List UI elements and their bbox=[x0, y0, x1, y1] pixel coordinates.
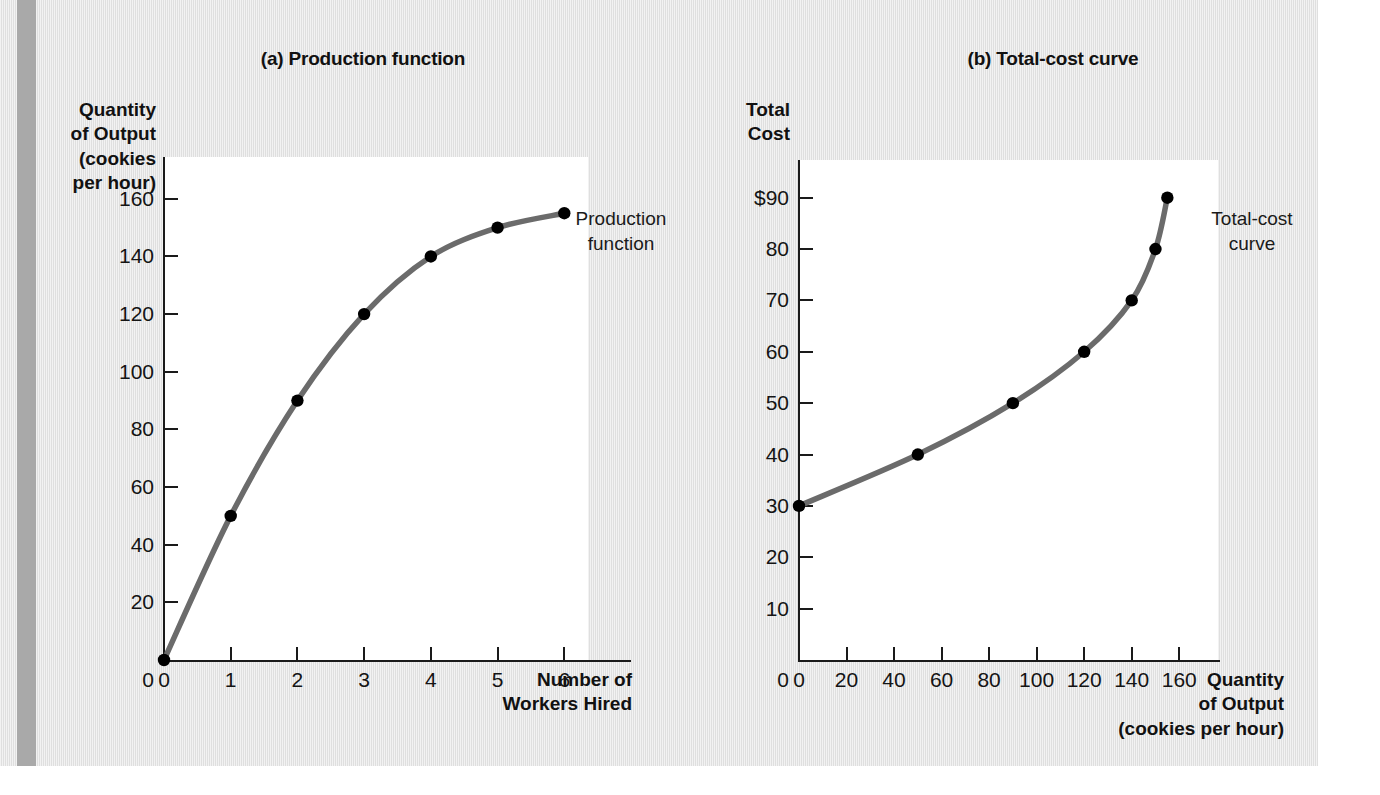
x-tick-label: 5 bbox=[468, 668, 528, 692]
y-tick-mark bbox=[800, 505, 813, 507]
plot-area-a bbox=[163, 157, 588, 660]
y-tick-label: 140 bbox=[74, 244, 154, 268]
y-tick-label: 10 bbox=[709, 597, 789, 621]
x-tick-mark bbox=[497, 647, 499, 660]
y-tick-label: 20 bbox=[709, 545, 789, 569]
y-tick-mark bbox=[165, 544, 178, 546]
x-tick-label: 0 bbox=[134, 668, 194, 692]
x-tick-label: 4 bbox=[401, 668, 461, 692]
y-tick-label: 40 bbox=[74, 533, 154, 557]
x-tick-mark bbox=[1083, 647, 1085, 660]
y-tick-label: 120 bbox=[74, 302, 154, 326]
x-tick-mark bbox=[230, 647, 232, 660]
x-tick-mark bbox=[363, 647, 365, 660]
x-tick-mark bbox=[1036, 647, 1038, 660]
curve-label-production-function: Production function bbox=[556, 207, 686, 256]
y-axis-caption-a: Quantity of Output (cookies per hour) bbox=[28, 98, 156, 195]
x-axis-b bbox=[798, 660, 1220, 662]
figure-root: (a) Production function Quantity of Outp… bbox=[0, 0, 1380, 795]
y-tick-label: 70 bbox=[709, 288, 789, 312]
y-tick-label: 30 bbox=[709, 494, 789, 518]
y-tick-mark bbox=[165, 255, 178, 257]
x-tick-mark bbox=[988, 647, 990, 660]
x-tick-mark bbox=[941, 647, 943, 660]
y-tick-mark bbox=[800, 351, 813, 353]
y-tick-mark bbox=[165, 486, 178, 488]
y-tick-label: 20 bbox=[74, 590, 154, 614]
x-tick-mark bbox=[1131, 647, 1133, 660]
y-tick-mark bbox=[800, 197, 813, 199]
y-tick-mark bbox=[800, 402, 813, 404]
x-tick-mark bbox=[563, 647, 565, 660]
y-tick-mark bbox=[800, 248, 813, 250]
panel-b-title: (b) Total-cost curve bbox=[708, 48, 1380, 70]
x-tick-mark bbox=[296, 647, 298, 660]
x-tick-label: 3 bbox=[334, 668, 394, 692]
y-tick-label: 60 bbox=[74, 475, 154, 499]
y-tick-mark bbox=[800, 608, 813, 610]
y-tick-mark bbox=[165, 371, 178, 373]
x-tick-mark bbox=[846, 647, 848, 660]
y-tick-label: 100 bbox=[74, 360, 154, 384]
x-tick-mark bbox=[893, 647, 895, 660]
x-tick-label: 1 bbox=[201, 668, 261, 692]
x-tick-label: 160 bbox=[1149, 668, 1209, 692]
y-tick-mark bbox=[165, 313, 178, 315]
y-tick-mark bbox=[800, 299, 813, 301]
y-tick-label: 80 bbox=[709, 237, 789, 261]
x-tick-label: 6 bbox=[534, 668, 594, 692]
y-tick-label: 160 bbox=[74, 187, 154, 211]
panel-a-title: (a) Production function bbox=[18, 48, 708, 70]
curve-label-total-cost-curve: Total-cost curve bbox=[1188, 207, 1316, 256]
y-axis-caption-b: Total Cost bbox=[690, 98, 790, 147]
y-tick-label: 80 bbox=[74, 417, 154, 441]
y-tick-mark bbox=[165, 428, 178, 430]
y-tick-mark bbox=[165, 198, 178, 200]
x-axis-a bbox=[163, 660, 631, 662]
y-tick-mark bbox=[800, 556, 813, 558]
y-tick-label: 40 bbox=[709, 443, 789, 467]
y-tick-label: $90 bbox=[709, 186, 789, 210]
x-tick-mark bbox=[1178, 647, 1180, 660]
plot-area-b bbox=[798, 160, 1218, 660]
x-tick-mark bbox=[430, 647, 432, 660]
y-tick-mark bbox=[800, 454, 813, 456]
y-axis-b bbox=[798, 160, 800, 662]
y-tick-label: 50 bbox=[709, 391, 789, 415]
y-tick-label: 60 bbox=[709, 340, 789, 364]
y-axis-a bbox=[163, 157, 165, 662]
y-tick-mark bbox=[165, 601, 178, 603]
x-tick-label: 2 bbox=[267, 668, 327, 692]
